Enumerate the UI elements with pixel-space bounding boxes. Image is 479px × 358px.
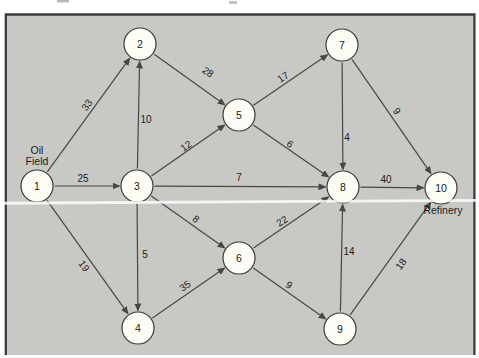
node-label-4: 4 [135,322,141,334]
edge-weight-3-8: 7 [236,172,242,183]
node-label-6: 6 [236,252,242,264]
node-label-3: 3 [134,180,140,192]
cropped-caption-remnant [229,1,237,4]
edge-3-4 [137,204,138,311]
edge-7-8 [342,63,343,170]
edge-weight-7-8: 4 [344,132,350,143]
node-label-10: 10 [435,182,447,194]
cropped-caption-remnant [57,0,69,2]
node-label-2: 2 [137,38,143,50]
edge-weight-3-2: 10 [140,114,152,125]
edge-weight-9-8: 14 [343,246,355,257]
edge-weight-8-10: 40 [380,174,392,185]
node-label-9: 9 [337,323,343,335]
node-label-7: 7 [339,39,345,51]
refinery-label: Refinery [423,204,463,216]
node-label-1: 1 [34,180,40,192]
node-label-5: 5 [236,109,242,121]
figure-background [5,14,475,355]
edge-weight-3-4: 5 [142,249,148,260]
flow-network-diagram: 3310282512785193517649402291418 12345678… [0,0,479,358]
scanned-figure-page: 3310282512785193517649402291418 12345678… [0,0,479,358]
oil-field-label-line2: Field [26,155,49,167]
edge-weight-1-3: 25 [77,173,89,184]
edge-8-10 [361,187,424,188]
node-label-8: 8 [340,181,346,193]
edge-3-8 [155,186,326,187]
